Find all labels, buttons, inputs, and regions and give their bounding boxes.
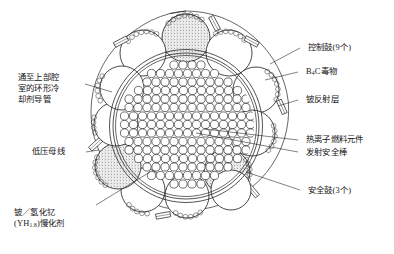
- label-control-drum: 控制鼓(9个): [308, 42, 351, 53]
- label-coolant-duct-line2: 室的环形冷: [18, 83, 84, 94]
- label-beryllium-reflector: 铍反射层: [306, 94, 339, 105]
- label-moderator: 铍／氢化钇 (YH1.8)慢化剂: [14, 207, 96, 231]
- label-b4c-suffix: C毒物: [315, 67, 337, 76]
- label-b4c-poison: B4C毒物: [306, 66, 337, 79]
- fuel-row: [120, 120, 254, 128]
- fuel-row: [120, 112, 254, 120]
- label-moderator-formula-suffix: )慢化剂: [37, 219, 65, 228]
- label-moderator-line1: 铍／氢化钇: [14, 207, 96, 218]
- label-emission-safety-rod: 发射安全棒: [306, 147, 347, 158]
- label-thermionic-fuel-element: 热离子燃料元件: [306, 134, 363, 145]
- label-coolant-duct-line3: 却剂导管: [18, 94, 84, 105]
- label-moderator-formula-prefix: (YH: [14, 219, 30, 228]
- label-coolant-duct: 通至上部腔 室的环形冷 却剂导管: [18, 72, 84, 106]
- label-low-voltage-bus: 低压母线: [32, 146, 65, 157]
- fuel-row: [120, 129, 254, 137]
- label-moderator-subscript: 1.8: [30, 222, 38, 228]
- label-moderator-line2: (YH1.8)慢化剂: [14, 218, 96, 231]
- label-coolant-duct-line1: 通至上部腔: [18, 72, 84, 83]
- label-safety-drum: 安全鼓(3个): [308, 185, 351, 196]
